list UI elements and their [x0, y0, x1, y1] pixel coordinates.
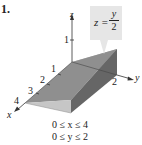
- x-axis-arrow-icon: [14, 107, 20, 113]
- equation-lhs: z =: [94, 17, 108, 28]
- x-tick-2: 2: [40, 75, 45, 85]
- y-tick-2: 2: [112, 77, 117, 87]
- fraction-numerator: y: [109, 9, 119, 19]
- problem-number: 1.: [1, 3, 10, 15]
- z-axis-label: z: [70, 10, 74, 19]
- callout-pointer: [100, 40, 108, 54]
- x-bounds: 0 ≤ x ≤ 4: [40, 120, 100, 130]
- x-tick-3: 3: [28, 86, 33, 96]
- x-tick-4: 4: [14, 96, 19, 106]
- z-tick-1: 1: [64, 35, 69, 45]
- y-bounds: 0 ≤ y ≤ 2: [40, 132, 100, 142]
- fraction-denominator: 2: [109, 22, 119, 32]
- equation-fraction: y 2: [109, 9, 119, 32]
- x-tick-1: 1: [51, 64, 56, 74]
- surface-equation-callout: z = y 2: [90, 6, 122, 40]
- x-axis-label: x: [7, 110, 11, 120]
- y-axis-label: y: [135, 73, 139, 83]
- y-axis-arrow-icon: [128, 77, 135, 81]
